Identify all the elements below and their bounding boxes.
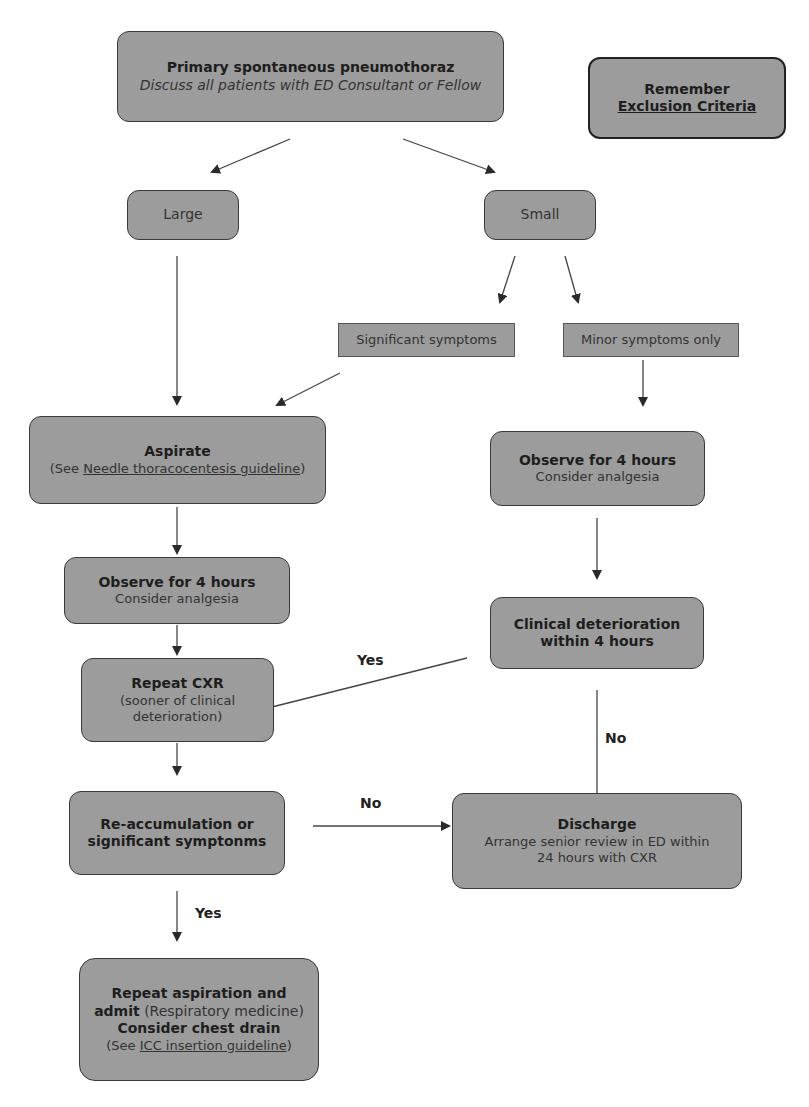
discharge-title: Discharge [558,816,637,834]
aspirate-node: Aspirate (See Needle thoracocentesis gui… [29,416,326,504]
needle-thoracocentesis-link[interactable]: Needle thoracocentesis guideline [83,461,300,476]
deterioration-line2: within 4 hours [540,633,653,651]
start-title: Primary spontaneous pneumothoraz [167,59,455,77]
discharge-node: Discharge Arrange senior review in ED wi… [452,793,742,889]
edge-label-yes-reaccumulation: Yes [195,905,222,921]
observe-right-node: Observe for 4 hours Consider analgesia [490,431,705,506]
reaccumulation-node: Re-accumulation or significant symptonms [69,791,285,875]
icc-insertion-link[interactable]: ICC insertion guideline [140,1038,287,1053]
edge-label-no-deterioration: No [605,730,626,746]
repeat-cxr-node: Repeat CXR (sooner of clinical deteriora… [81,658,274,742]
repeat-aspiration-admit-node: Repeat aspiration and admit (Respiratory… [79,958,319,1081]
reminder-prefix: Remember [644,81,729,97]
observe-left-title: Observe for 4 hours [98,574,255,592]
connector-arrows [0,0,809,1107]
clinical-deterioration-node: Clinical deterioration within 4 hours [490,597,704,669]
exclusion-criteria-reminder: Remember Exclusion Criteria [588,57,786,139]
large-node: Large [127,190,239,240]
minor-symptoms-node: Minor symptoms only [563,323,739,357]
observe-right-title: Observe for 4 hours [519,452,676,470]
aspirate-title: Aspirate [144,443,211,461]
significant-symptoms-node: Significant symptoms [338,323,515,357]
start-node: Primary spontaneous pneumothoraz Discuss… [117,31,504,122]
small-label: Small [521,206,560,224]
exclusion-criteria-link[interactable]: Exclusion Criteria [618,98,757,114]
small-node: Small [484,190,596,240]
observe-left-node: Observe for 4 hours Consider analgesia [64,557,290,624]
significant-symptoms-label: Significant symptoms [356,332,497,348]
minor-symptoms-label: Minor symptoms only [581,332,721,348]
deterioration-line1: Clinical deterioration [514,616,681,634]
start-subtitle: Discuss all patients with ED Consultant … [140,77,482,95]
observe-right-subtitle: Consider analgesia [536,469,660,485]
edge-label-yes-deterioration: Yes [357,652,384,668]
edge-label-no-reaccumulation: No [360,795,381,811]
observe-left-subtitle: Consider analgesia [115,591,239,607]
repeat-cxr-title: Repeat CXR [131,675,224,693]
large-label: Large [163,206,202,224]
